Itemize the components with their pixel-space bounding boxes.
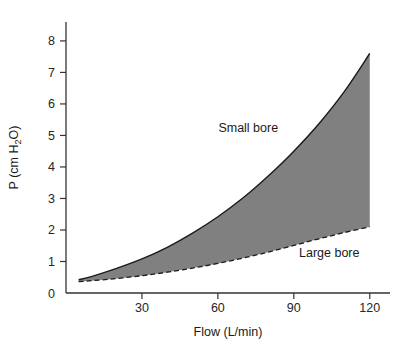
y-axis-title-lead: P (cm H: [7, 144, 21, 189]
y-tick-label: 7: [48, 66, 55, 80]
y-axis-title: P (cm H2O): [7, 126, 23, 190]
series-annotation: Small bore: [218, 121, 278, 135]
y-tick-label: 1: [48, 255, 55, 269]
pressure-flow-chart: 306090120 012345678 Small boreLarge bore…: [0, 0, 409, 345]
x-tick-label: 120: [359, 301, 380, 315]
y-tick-label: 4: [48, 160, 55, 174]
x-tick-label: 30: [135, 301, 149, 315]
y-tick-label: 2: [48, 223, 55, 237]
series-annotation: Large bore: [299, 246, 360, 260]
svg-text:P (cm H2O): P (cm H2O): [7, 126, 23, 190]
y-axis-title-trail: O): [7, 126, 21, 140]
y-tick-label: 0: [48, 287, 55, 301]
x-tick-label: 90: [287, 301, 301, 315]
y-tick-label: 6: [48, 97, 55, 111]
y-tick-label: 3: [48, 192, 55, 206]
y-tick-label: 5: [48, 129, 55, 143]
y-tick-label: 8: [48, 34, 55, 48]
x-tick-label: 60: [211, 301, 225, 315]
x-axis-title: Flow (L/min): [194, 325, 263, 339]
chart-container: 306090120 012345678 Small boreLarge bore…: [0, 0, 409, 345]
